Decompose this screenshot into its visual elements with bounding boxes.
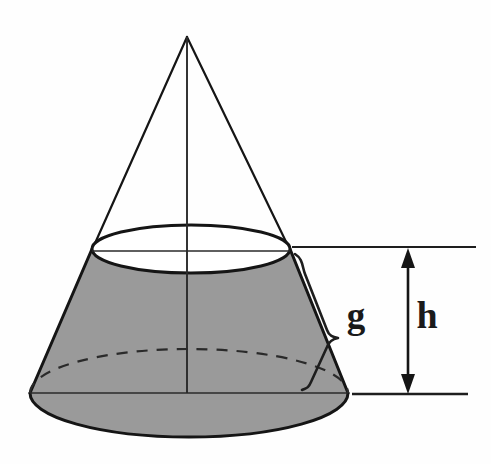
figure-canvas: g h bbox=[0, 0, 491, 464]
height-label: h bbox=[416, 294, 437, 336]
cone-diagram: g h bbox=[0, 0, 491, 464]
slant-height-label: g bbox=[347, 295, 366, 336]
